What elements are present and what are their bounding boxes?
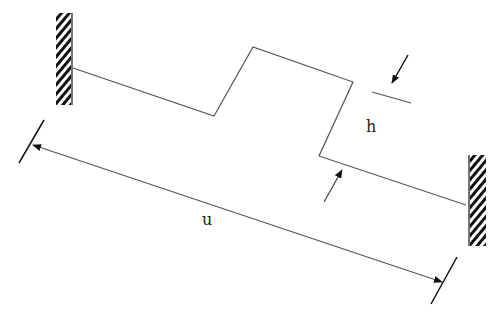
right-fixed-support <box>469 155 486 246</box>
dimension-u: u <box>19 120 457 304</box>
hatch-pattern <box>56 13 71 105</box>
label-h: h <box>366 117 376 136</box>
label-u: u <box>202 210 212 229</box>
beam-centerline <box>73 47 466 205</box>
reference-line-h <box>372 92 411 103</box>
extension-tick-right <box>431 257 457 304</box>
hatch-pattern <box>470 155 486 246</box>
extension-tick-left <box>19 120 44 163</box>
arrow-h-top <box>392 55 408 83</box>
diagram-canvas: u h <box>0 0 504 324</box>
arrow-h-bottom <box>324 170 342 202</box>
dimension-arrow-u <box>33 145 442 282</box>
left-fixed-support <box>56 13 72 105</box>
